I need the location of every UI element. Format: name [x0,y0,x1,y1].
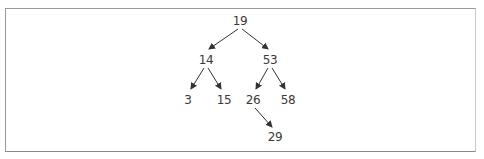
edge-53-26 [256,68,268,89]
edge-19-14 [209,29,238,49]
tree-node-root: 19 [233,14,248,28]
tree-node-58: 58 [281,93,296,107]
tree-node-3: 3 [184,93,191,107]
tree-node-15: 15 [217,93,232,107]
tree-node-14: 14 [199,53,214,67]
edge-26-29 [255,108,272,127]
edge-14-15 [208,68,221,89]
edge-19-53 [242,29,268,49]
tree-node-29: 29 [268,130,283,144]
edge-14-3 [191,68,204,89]
tree-node-26: 26 [246,93,261,107]
edge-53-58 [272,68,285,89]
tree-node-53: 53 [263,53,278,67]
